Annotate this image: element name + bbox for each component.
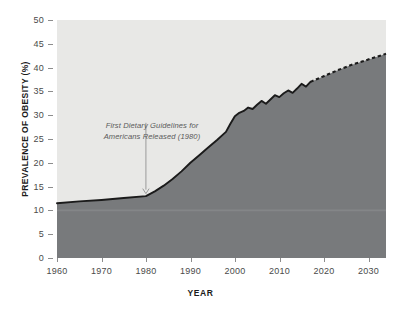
annotation-line-2: Americans Released (1980)	[76, 132, 228, 143]
plot-area	[0, 0, 401, 310]
annotation-label: First Dietary Guidelines for Americans R…	[76, 121, 228, 142]
obesity-prevalence-chart: PREVALENCE OF OBESITY (%) YEAR 50 45 40 …	[0, 0, 401, 310]
annotation-line-1: First Dietary Guidelines for	[76, 121, 228, 132]
